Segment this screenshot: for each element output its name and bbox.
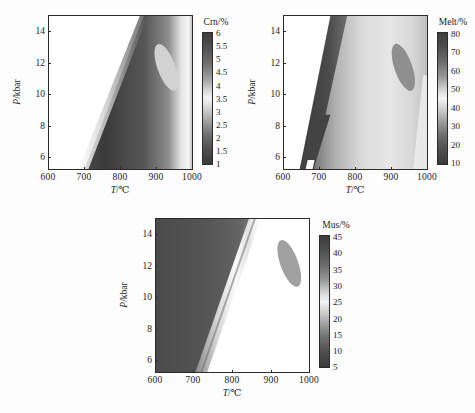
xticklabel-melt: 700 — [312, 172, 327, 182]
yticklabel-crn: 8 — [33, 121, 45, 131]
colorbar-ticklabel-melt: 20 — [451, 140, 460, 150]
ytick-mus — [155, 329, 158, 330]
xtick-melt — [355, 167, 356, 170]
yticklabel-mus: 6 — [140, 355, 152, 365]
plot-area-mus — [155, 218, 310, 373]
xtick-mus — [193, 370, 194, 373]
yticklabel-mus: 12 — [134, 261, 152, 271]
xaxis-label-melt: T/℃ — [346, 184, 365, 195]
yticklabel-melt: 8 — [268, 121, 280, 131]
colorbar-gradient-melt — [438, 33, 447, 164]
yaxis-label-melt: P/kbar — [247, 79, 257, 104]
xtick-crn — [84, 167, 85, 170]
colorbar-mus — [319, 235, 330, 368]
xtick-crn — [192, 167, 193, 170]
ytick-crn — [48, 157, 51, 158]
colorbar-ticklabel-crn: 2 — [216, 133, 221, 143]
colorbar-ticklabel-crn: 6 — [216, 28, 221, 38]
ytick-mus — [155, 234, 158, 235]
xaxis-label-crn: T/℃ — [111, 184, 130, 195]
colorbar-ticklabel-mus: 40 — [333, 248, 342, 258]
colorbar-ticklabel-crn: 4.5 — [216, 67, 227, 77]
colorbar-ticklabel-melt: 60 — [451, 66, 460, 76]
panel-melt: 600 700 800 900 1000 6 8 10 12 14 T/℃ P/… — [235, 0, 475, 200]
yaxis-label-mus: P/kbar — [119, 282, 129, 307]
colorbar-ticklabel-mus: 45 — [333, 232, 342, 242]
ytick-melt — [283, 31, 286, 32]
xticklabel-mus: 900 — [264, 375, 279, 385]
xtick-mus — [155, 370, 156, 373]
xticklabel-crn: 600 — [41, 172, 56, 182]
colorbar-gradient-mus — [320, 236, 329, 367]
colorbar-ticklabel-mus: 5 — [333, 362, 338, 372]
xticklabel-crn: 900 — [149, 172, 164, 182]
yticklabel-melt: 10 — [262, 89, 280, 99]
colorbar-ticklabel-crn: 5.5 — [216, 41, 227, 51]
colorbar-ticklabel-crn: 1.5 — [216, 146, 227, 156]
ytick-crn — [48, 126, 51, 127]
colorbar-ticklabel-crn: 5 — [216, 54, 221, 64]
xtick-crn — [120, 167, 121, 170]
xtick-mus — [232, 370, 233, 373]
xtick-mus — [309, 370, 310, 373]
yticklabel-melt: 14 — [262, 26, 280, 36]
figure-root: 600 700 800 900 1000 6 8 10 12 14 T/℃ P/… — [0, 0, 475, 413]
yticklabel-crn: 14 — [27, 26, 45, 36]
xticklabel-mus: 700 — [186, 375, 201, 385]
colorbar-ticklabel-melt: 70 — [451, 47, 460, 57]
xtick-mus — [271, 370, 272, 373]
plot-area-crn — [48, 15, 193, 170]
xticklabel-crn: 1000 — [182, 172, 202, 182]
colorbar-ticklabel-mus: 20 — [333, 314, 342, 324]
colorbar-melt — [437, 32, 448, 165]
colorbar-title-mus: Mus/% — [322, 220, 349, 230]
xticklabel-crn: 700 — [77, 172, 92, 182]
ytick-crn — [48, 63, 51, 64]
heatmap-canvas-melt — [284, 16, 427, 169]
ytick-crn — [48, 31, 51, 32]
xaxis-label-mus: T/℃ — [223, 387, 242, 398]
ytick-mus — [155, 297, 158, 298]
yaxis-label-crn: P/kbar — [12, 79, 22, 104]
yticklabel-crn: 6 — [33, 152, 45, 162]
yticklabel-mus: 14 — [134, 229, 152, 239]
colorbar-ticklabel-melt: 80 — [451, 29, 460, 39]
panel-crn: 600 700 800 900 1000 6 8 10 12 14 T/℃ P/… — [0, 0, 240, 200]
heatmap-canvas-crn — [49, 16, 192, 169]
yticklabel-melt: 12 — [262, 58, 280, 68]
xticklabel-melt: 900 — [384, 172, 399, 182]
colorbar-ticklabel-crn: 3.5 — [216, 94, 227, 104]
plot-area-melt — [283, 15, 428, 170]
ytick-mus — [155, 266, 158, 267]
xtick-melt — [283, 167, 284, 170]
ytick-melt — [283, 63, 286, 64]
ytick-melt — [283, 126, 286, 127]
heatmap-canvas-mus — [156, 219, 309, 372]
yticklabel-crn: 12 — [27, 58, 45, 68]
colorbar-ticklabel-mus: 10 — [333, 346, 342, 356]
colorbar-ticklabel-crn: 4 — [216, 81, 221, 91]
colorbar-ticklabel-mus: 35 — [333, 265, 342, 275]
ytick-melt — [283, 157, 286, 158]
colorbar-ticklabel-mus: 25 — [333, 297, 342, 307]
ytick-melt — [283, 94, 286, 95]
ytick-crn — [48, 94, 51, 95]
colorbar-ticklabel-melt: 50 — [451, 84, 460, 94]
colorbar-gradient-crn — [203, 33, 212, 164]
yticklabel-mus: 10 — [134, 292, 152, 302]
xticklabel-melt: 800 — [348, 172, 363, 182]
colorbar-ticklabel-crn: 3 — [216, 107, 221, 117]
colorbar-ticklabel-mus: 15 — [333, 330, 342, 340]
xtick-crn — [48, 167, 49, 170]
colorbar-title-crn: Crn/% — [204, 17, 229, 27]
xtick-melt — [391, 167, 392, 170]
colorbar-ticklabel-crn: 2.5 — [216, 120, 227, 130]
colorbar-ticklabel-crn: 1 — [216, 159, 221, 169]
xticklabel-mus: 600 — [148, 375, 163, 385]
panel-mus: 600 700 800 900 1000 6 8 10 12 14 T/℃ P/… — [110, 205, 360, 413]
xtick-melt — [319, 167, 320, 170]
colorbar-ticklabel-melt: 40 — [451, 103, 460, 113]
xticklabel-mus: 1000 — [299, 375, 319, 385]
colorbar-ticklabel-mus: 30 — [333, 281, 342, 291]
yticklabel-mus: 8 — [140, 324, 152, 334]
